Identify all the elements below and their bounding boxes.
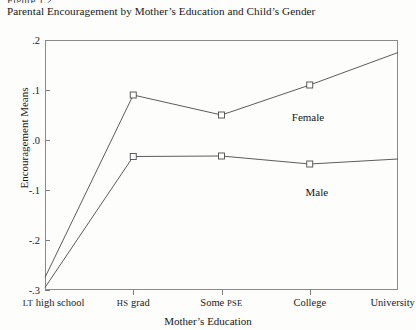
data-point-marker: [307, 161, 313, 167]
series-label-male: Male: [305, 186, 328, 198]
series-line-male: [45, 156, 398, 288]
data-point-marker: [307, 82, 313, 88]
data-point-marker: [219, 153, 225, 159]
x-axis-title: Mother’s Education: [0, 315, 416, 327]
series-layer: [0, 0, 416, 330]
figure-container: Figure 1.2 Parental Encouragement by Mot…: [0, 0, 416, 330]
data-point-marker: [219, 112, 225, 118]
series-label-female: Female: [292, 111, 324, 123]
series-line-female: [45, 53, 398, 278]
data-point-marker: [130, 154, 136, 160]
data-point-marker: [130, 92, 136, 98]
